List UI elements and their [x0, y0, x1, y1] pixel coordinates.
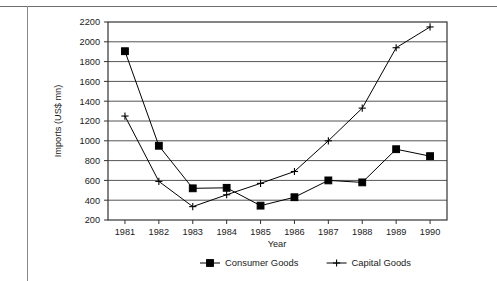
- x-tick-label-1989: 1989: [386, 227, 406, 237]
- data-point-1989: [393, 146, 400, 153]
- data-point-1987: [325, 177, 332, 184]
- data-point-1982: [155, 142, 162, 149]
- y-tick-label-1800: 1800: [80, 57, 100, 67]
- x-tick-label-1982: 1982: [149, 227, 169, 237]
- legend-marker: [333, 259, 340, 266]
- x-axis-tick-labels: 1981198219831984198519861987198819891990: [115, 227, 441, 237]
- y-axis-title: Imports (US$ mn): [53, 85, 63, 158]
- data-point-1985: [257, 202, 264, 209]
- y-tick-label-1000: 1000: [80, 136, 100, 146]
- x-tick-label-1990: 1990: [420, 227, 440, 237]
- y-tick-label-400: 400: [85, 196, 100, 206]
- legend-marker: [207, 260, 214, 267]
- y-tick-label-2200: 2200: [80, 17, 100, 27]
- legend-label: Capital Goods: [352, 257, 412, 268]
- data-point-1983: [189, 185, 196, 192]
- y-tick-label-600: 600: [85, 176, 100, 186]
- chart-legend: Consumer GoodsCapital Goods: [200, 257, 411, 268]
- legend-item-consumer-goods: Consumer Goods: [200, 257, 299, 268]
- data-point-1986: [291, 194, 298, 201]
- y-axis-tick-labels: 2004006008001000120014001600180020002200: [80, 17, 100, 225]
- x-tick-label-1981: 1981: [115, 227, 135, 237]
- x-tick-label-1985: 1985: [250, 227, 270, 237]
- x-tick-label-1984: 1984: [216, 227, 236, 237]
- data-point-1988: [359, 179, 366, 186]
- data-point-1990: [427, 153, 434, 160]
- x-axis-ticks: [125, 220, 430, 224]
- y-tick-label-1200: 1200: [80, 116, 100, 126]
- x-tick-label-1986: 1986: [284, 227, 304, 237]
- x-tick-label-1988: 1988: [352, 227, 372, 237]
- data-point-1984: [223, 184, 230, 191]
- imports-line-chart: 2004006008001000120014001600180020002200…: [0, 0, 497, 281]
- figure-frame: 2004006008001000120014001600180020002200…: [0, 0, 497, 281]
- x-tick-label-1987: 1987: [318, 227, 338, 237]
- legend-item-capital-goods: Capital Goods: [327, 257, 412, 268]
- legend-label: Consumer Goods: [225, 257, 299, 268]
- y-tick-label-1400: 1400: [80, 97, 100, 107]
- y-tick-label-1600: 1600: [80, 77, 100, 87]
- y-tick-label-200: 200: [85, 215, 100, 225]
- x-tick-label-1983: 1983: [183, 227, 203, 237]
- data-point-1981: [122, 48, 129, 55]
- x-axis-title: Year: [268, 239, 287, 249]
- y-tick-label-800: 800: [85, 156, 100, 166]
- y-tick-label-2000: 2000: [80, 37, 100, 47]
